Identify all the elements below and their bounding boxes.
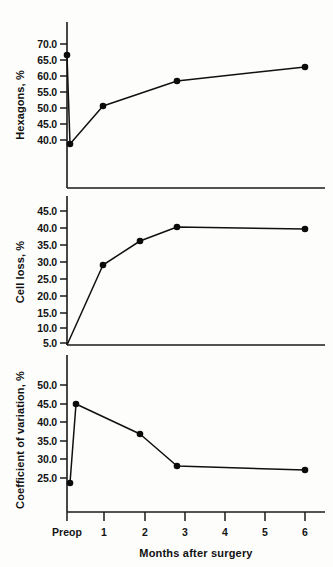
panel2-point-month2: [137, 238, 144, 245]
panel3-ytick-3: 35.0: [37, 435, 57, 447]
panel2-point-month3: [174, 224, 181, 231]
panel3-ytick-4: 30.0: [37, 453, 57, 465]
panel3-point-month3: [174, 463, 181, 470]
xtick-preop: Preop: [52, 526, 82, 538]
panel3-ytick-0: 50.0: [37, 379, 57, 391]
panel1-ytick-5: 45.0: [37, 118, 57, 130]
panel1-tick-labels: 70.0 65.0 60.0 55.0 50.0 45.0 40.0: [37, 38, 57, 146]
panel1-point-month1: [100, 103, 107, 110]
xtick-4: 4: [222, 526, 228, 538]
panel2-ytick-3: 30.0: [37, 256, 57, 268]
panel3-point-preop: [67, 480, 74, 487]
panel3-data-points: [67, 401, 309, 487]
panel2-ytick-0: 45.0: [37, 205, 57, 217]
xtick-1: 1: [101, 526, 107, 538]
figure-container: 70.0 65.0 60.0 55.0 50.0 45.0 40.0 Hexag…: [0, 0, 333, 567]
panel3-point-month2: [137, 431, 144, 438]
xtick-2: 2: [142, 526, 148, 538]
panel1-point-month6: [302, 64, 309, 71]
panel1-tick-marks: [60, 44, 67, 140]
panel3-series-line: [70, 404, 305, 483]
panel2-ytick-7: 10.0: [37, 322, 57, 334]
panel1-point-preop: [64, 52, 71, 59]
panel3-tick-labels: 50.0 45.0 40.0 35.0 30.0 25.0: [37, 379, 57, 484]
panel2-series-line: [67, 227, 305, 345]
panel3-y-axis-title: Coefficient of variation, %: [14, 371, 26, 509]
panel1-ytick-6: 40.0: [37, 134, 57, 146]
panel2-tick-marks: [60, 211, 67, 343]
panel1-ytick-2: 60.0: [37, 70, 57, 82]
panel2-ytick-2: 35.0: [37, 239, 57, 251]
panel1-point-month3: [174, 78, 181, 85]
panel1-ytick-1: 65.0: [37, 54, 57, 66]
panel1-y-axis-title: Hexagons, %: [14, 70, 26, 140]
multi-panel-line-chart: 70.0 65.0 60.0 55.0 50.0 45.0 40.0 Hexag…: [0, 0, 333, 567]
panel2-ytick-4: 25.0: [37, 273, 57, 285]
xtick-3: 3: [182, 526, 188, 538]
panel2-point-month6: [302, 226, 309, 233]
panel-hexagons: 70.0 65.0 60.0 55.0 50.0 45.0 40.0 Hexag…: [14, 22, 325, 188]
panel3-ytick-1: 45.0: [37, 398, 57, 410]
xtick-6: 6: [302, 526, 308, 538]
panel3-tick-marks: [60, 385, 67, 478]
panel-coefficient-of-variation: 50.0 45.0 40.0 35.0 30.0 25.0 Coefficien…: [14, 355, 325, 512]
panel2-ytick-1: 40.0: [37, 222, 57, 234]
panel3-point-month6: [302, 467, 309, 474]
panel-cell-loss: 45.0 40.0 35.0 30.0 25.0 20.0 15.0 10.0 …: [14, 196, 325, 349]
panel3-ytick-5: 25.0: [37, 472, 57, 484]
x-axis-group: Preop 1 2 3 4 5 6 Months after surgery: [52, 512, 308, 559]
x-tick-marks: [67, 512, 305, 521]
xtick-5: 5: [262, 526, 268, 538]
panel2-ytick-8: 5.0: [43, 337, 57, 349]
panel2-tick-labels: 45.0 40.0 35.0 30.0 25.0 20.0 15.0 10.0 …: [37, 205, 57, 349]
panel2-y-axis-title: Cell loss, %: [14, 241, 26, 303]
x-axis-title: Months after surgery: [139, 547, 253, 559]
panel1-point-postop: [67, 141, 74, 148]
panel3-ytick-2: 40.0: [37, 416, 57, 428]
panel3-point-month1: [73, 401, 80, 408]
panel1-data-points: [64, 52, 309, 148]
panel1-series-line: [67, 55, 305, 144]
panel1-ytick-4: 50.0: [37, 102, 57, 114]
panel2-point-month1: [100, 262, 107, 269]
panel2-ytick-5: 20.0: [37, 290, 57, 302]
x-tick-labels: Preop 1 2 3 4 5 6: [52, 526, 308, 538]
panel2-ytick-6: 15.0: [37, 307, 57, 319]
panel1-ytick-3: 55.0: [37, 86, 57, 98]
panel1-ytick-0: 70.0: [37, 38, 57, 50]
